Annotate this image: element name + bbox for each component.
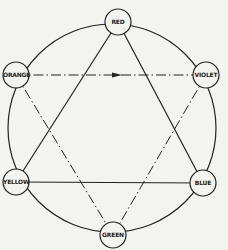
line-orange-green bbox=[16, 75, 113, 235]
diagram-lines bbox=[0, 0, 228, 250]
label-orange: ORANGE bbox=[3, 71, 29, 79]
line-yellow-blue bbox=[16, 182, 203, 183]
line-violet-green bbox=[113, 75, 206, 235]
line-red-yellow bbox=[16, 22, 118, 182]
label-red: RED bbox=[105, 18, 131, 26]
label-blue: BLUE bbox=[190, 179, 216, 187]
label-green: GREEN bbox=[100, 231, 126, 239]
label-yellow: YELLOW bbox=[3, 178, 29, 186]
outer-circle bbox=[8, 24, 216, 232]
label-violet: VIOLET bbox=[193, 71, 219, 79]
arrow-icon bbox=[112, 73, 122, 78]
color-wheel-diagram: RED ORANGE VIOLET YELLOW BLUE GREEN bbox=[0, 0, 228, 250]
